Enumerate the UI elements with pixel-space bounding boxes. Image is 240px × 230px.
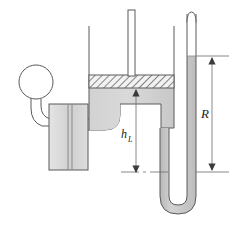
- figure-container: h L R: [0, 0, 240, 230]
- rod-shaft: [128, 10, 135, 76]
- schematic-svg: h L R: [0, 0, 240, 230]
- R-label: R: [200, 106, 209, 121]
- piston-body: [89, 75, 174, 88]
- dimension-R: R: [196, 56, 229, 172]
- tank-bottom-step: [120, 104, 161, 128]
- bulb-circle: [19, 65, 53, 99]
- h-L-label-subscript: L: [127, 135, 133, 144]
- manometer-sealed-top: [187, 12, 196, 23]
- gauge-block: [49, 104, 88, 170]
- hatched-piston: [89, 75, 174, 88]
- piston-rod: [128, 10, 135, 76]
- R-arrow-up: [208, 57, 215, 65]
- R-arrow-down: [208, 164, 215, 172]
- h-L-label-main: h: [121, 127, 127, 141]
